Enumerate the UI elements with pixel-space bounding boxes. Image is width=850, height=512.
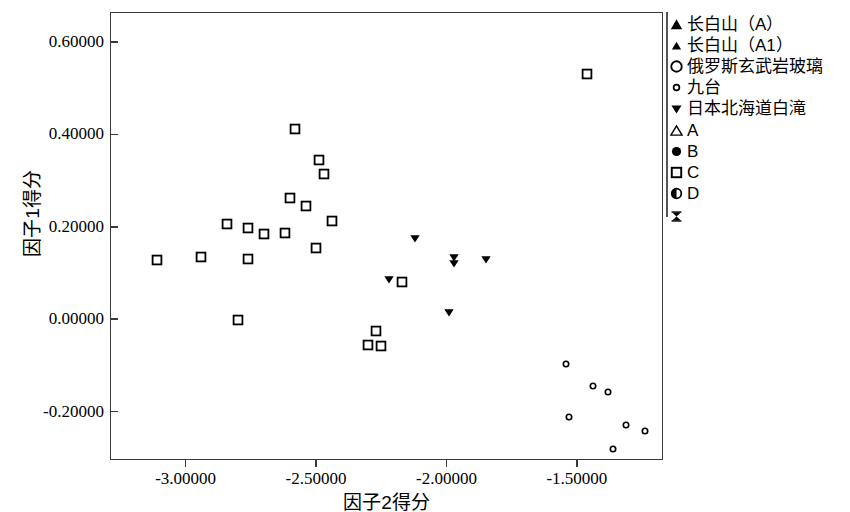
triangle-up-filled-large-icon	[666, 15, 686, 35]
data-point	[374, 339, 388, 353]
data-point	[325, 214, 339, 228]
data-point	[586, 379, 600, 393]
legend-item-label: 俄罗斯玄武岩玻璃	[687, 58, 823, 76]
x-tick-label: -1.50000	[497, 470, 657, 487]
data-point	[559, 357, 573, 371]
data-point	[619, 418, 633, 432]
legend-item[interactable]: 日本北海道白滝	[666, 98, 806, 119]
y-tick-mark	[110, 226, 118, 228]
data-point	[317, 167, 331, 181]
scatter-plot-figure: 0.600000.400000.200000.00000-0.20000 -3.…	[0, 0, 850, 512]
data-point	[479, 252, 493, 266]
y-tick-mark	[110, 411, 118, 413]
data-point	[562, 410, 576, 424]
data-point	[278, 226, 292, 240]
data-point	[395, 275, 409, 289]
triangle-down-filled-icon	[666, 99, 686, 119]
data-point	[312, 153, 326, 167]
legend-item[interactable]: B	[666, 141, 698, 162]
data-point	[299, 199, 313, 213]
x-tick-mark	[315, 459, 317, 467]
data-point	[408, 231, 422, 245]
data-point	[194, 250, 208, 264]
legend-item[interactable]: D	[666, 183, 699, 204]
legend-item-label: 九台	[687, 79, 721, 97]
x-axis-label: 因子2得分	[110, 487, 663, 512]
legend-item[interactable]: 长白山（A）	[666, 14, 783, 35]
circle-filled-icon	[666, 142, 686, 162]
data-point	[309, 241, 323, 255]
legend-item[interactable]	[666, 206, 687, 227]
legend-item-label: B	[687, 143, 698, 161]
x-tick-mark	[185, 459, 187, 467]
y-tick-label: 0.60000	[0, 33, 104, 50]
data-point	[580, 67, 594, 81]
y-tick-mark	[110, 41, 118, 43]
legend-item-label: 日本北海道白滝	[687, 100, 806, 118]
data-point	[606, 442, 620, 456]
legend-item[interactable]: 长白山（A1）	[666, 35, 793, 56]
data-point	[369, 324, 383, 338]
legend: 长白山（A）长白山（A1）俄罗斯玄武岩玻璃九台日本北海道白滝ABCD	[666, 10, 850, 224]
legend-item-label: 长白山（A）	[687, 16, 783, 34]
legend-item[interactable]: 九台	[666, 77, 721, 98]
triangle-up-filled-small-icon	[666, 36, 686, 56]
data-point	[241, 221, 255, 235]
data-point	[447, 256, 461, 270]
data-point	[442, 305, 456, 319]
y-tick-mark	[110, 134, 118, 136]
data-point	[382, 272, 396, 286]
y-tick-mark	[110, 318, 118, 320]
data-point	[638, 424, 652, 438]
legend-item[interactable]: 俄罗斯玄武岩玻璃	[666, 56, 823, 77]
y-tick-label: -0.20000	[0, 403, 104, 420]
circle-half-filled-icon	[666, 184, 686, 204]
legend-item-label: 长白山（A1）	[687, 37, 793, 55]
data-point	[241, 252, 255, 266]
triangle-up-open-icon	[666, 121, 686, 141]
data-point	[257, 227, 271, 241]
square-open-icon	[666, 163, 686, 183]
data-point	[601, 385, 615, 399]
legend-item-label: D	[687, 185, 699, 203]
circle-open-large-icon	[666, 57, 686, 77]
x-tick-mark	[576, 459, 578, 467]
x-tick-mark	[446, 459, 448, 467]
data-point	[220, 217, 234, 231]
legend-item-label: A	[687, 122, 698, 140]
data-point	[288, 122, 302, 136]
legend-item[interactable]: A	[666, 120, 698, 141]
legend-item[interactable]: C	[666, 162, 699, 183]
data-point	[150, 253, 164, 267]
y-axis-label: 因子1得分	[17, 104, 44, 324]
data-point	[283, 191, 297, 205]
data-point	[231, 313, 245, 327]
data-point	[361, 338, 375, 352]
circle-open-small-icon	[666, 78, 686, 98]
legend-item-label: C	[687, 164, 699, 182]
hourglass-icon	[666, 207, 686, 227]
